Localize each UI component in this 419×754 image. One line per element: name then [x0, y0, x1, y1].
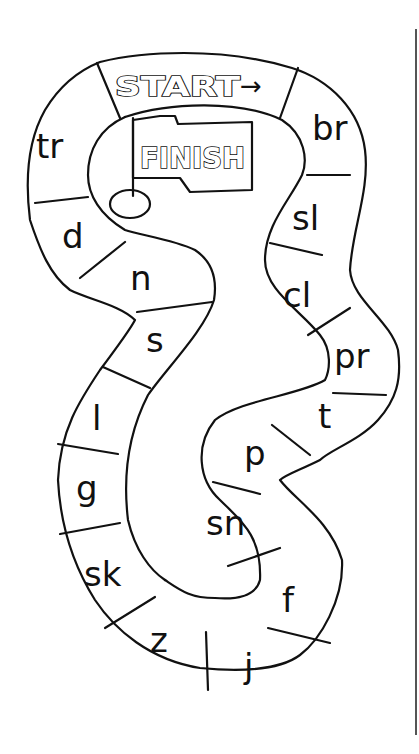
space-pr: pr: [334, 336, 370, 376]
space-p: p: [244, 433, 266, 473]
space-t: t: [318, 396, 331, 436]
divider-cl-pr: [308, 308, 350, 335]
divider-d-tr: [35, 197, 88, 203]
space-d: d: [62, 216, 84, 256]
space-sn: sn: [206, 503, 245, 543]
space-sk: sk: [84, 554, 122, 594]
divider-sl-cl: [270, 243, 322, 255]
divider-g-l: [58, 444, 118, 454]
divider-t-p: [272, 425, 310, 455]
space-tr: tr: [36, 126, 63, 166]
space-j: j: [243, 646, 253, 686]
space-cl: cl: [283, 275, 311, 315]
page-edge-rule: [415, 29, 417, 735]
divider-pr-t: [333, 393, 386, 395]
space-br: br: [312, 108, 348, 148]
start-divider-right: [280, 68, 298, 118]
start-label: START: [115, 72, 240, 102]
game-board: FINISH START →: [0, 0, 419, 754]
space-sl: sl: [292, 198, 319, 238]
flag-base-hole: [110, 190, 150, 218]
space-z: z: [150, 620, 168, 660]
divider-p-sn: [213, 482, 260, 494]
divider-l-s: [103, 367, 150, 388]
space-g: g: [76, 468, 98, 508]
space-labels: br sl cl pr t p sn f j z sk g l s n d tr: [36, 108, 370, 686]
divider-s-n: [137, 302, 212, 312]
start-space: START →: [97, 63, 298, 118]
board-drawing: FINISH START →: [0, 0, 419, 754]
space-n: n: [130, 258, 152, 298]
space-l: l: [92, 398, 101, 438]
finish-flag: FINISH: [110, 116, 252, 218]
space-dividers: [35, 175, 386, 690]
start-arrow-icon: →: [240, 71, 262, 101]
divider-z-sk: [105, 597, 155, 628]
divider-sn-f: [228, 548, 280, 566]
finish-label: FINISH: [140, 142, 245, 175]
divider-sk-g: [60, 523, 120, 534]
space-s: s: [146, 320, 164, 360]
divider-j-z: [206, 632, 208, 690]
space-f: f: [282, 580, 295, 620]
divider-n-d: [80, 242, 125, 278]
